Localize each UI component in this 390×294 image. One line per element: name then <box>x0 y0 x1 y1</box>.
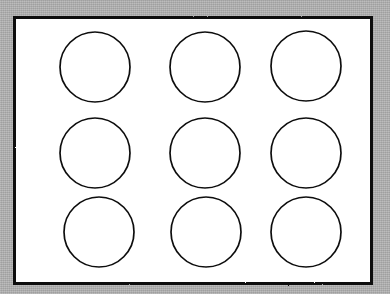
circle-row1-col1 <box>60 32 130 102</box>
circle-row3-col3 <box>271 197 341 267</box>
circle-row2-col2 <box>170 118 240 188</box>
circle-grid <box>60 31 341 267</box>
circle-row2-col3 <box>271 118 341 188</box>
circle-row3-col2 <box>171 197 241 267</box>
line-drawing <box>0 0 390 294</box>
circle-row1-col3 <box>271 31 341 101</box>
figure-canvas <box>0 0 390 294</box>
circle-row1-col2 <box>170 32 240 102</box>
circle-row2-col1 <box>60 118 130 188</box>
circle-row3-col1 <box>64 197 134 267</box>
